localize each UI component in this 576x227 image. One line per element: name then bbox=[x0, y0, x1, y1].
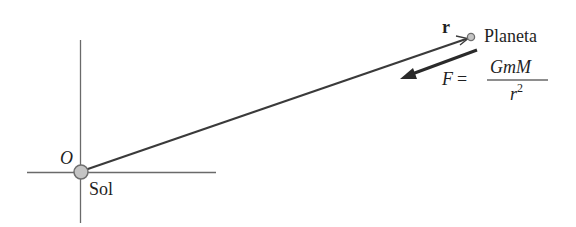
position-vector-label: r bbox=[442, 17, 450, 37]
force-denominator: r2 bbox=[510, 81, 523, 104]
force-numerator: GmM bbox=[490, 57, 532, 77]
planet-label: Planeta bbox=[484, 26, 537, 46]
sun-body bbox=[74, 165, 88, 179]
orbit-diagram: O Sol r Planeta F= GmM r2 bbox=[0, 0, 576, 227]
sun-label: Sol bbox=[89, 179, 113, 199]
sun-planet-line bbox=[82, 39, 466, 171]
origin-label: O bbox=[60, 148, 73, 168]
force-formula: F= GmM r2 bbox=[441, 57, 548, 104]
planet-body bbox=[467, 33, 474, 40]
force-lhs: F= bbox=[441, 69, 467, 89]
force-arrowhead bbox=[400, 68, 417, 79]
